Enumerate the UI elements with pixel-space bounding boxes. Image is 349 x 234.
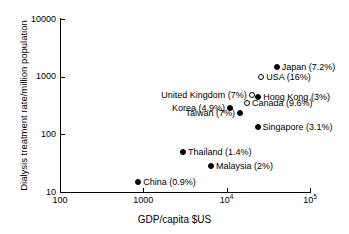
- data-point-label: China (0.9%): [143, 177, 196, 186]
- data-point-label: United Kingdom (7%): [161, 91, 247, 100]
- data-point-label: Taiwan (7%): [186, 108, 236, 117]
- x-tick-label: 105: [303, 196, 317, 205]
- data-point-marker: [244, 100, 250, 106]
- y-tick-mark: [61, 77, 65, 78]
- x-tick-mark: [143, 188, 144, 192]
- data-point-label: Malaysia (2%): [216, 162, 273, 171]
- x-tick-mark: [60, 188, 61, 192]
- x-tick-label: 1000: [133, 196, 153, 205]
- data-point-marker: [274, 64, 280, 70]
- data-point-marker: [135, 179, 141, 185]
- data-point-marker: [208, 163, 214, 169]
- data-point-marker: [255, 124, 261, 130]
- x-axis-title: GDP/capita $US: [0, 214, 349, 225]
- data-point-marker: [258, 74, 264, 80]
- y-tick-mark: [61, 134, 65, 135]
- x-tick-mark: [310, 188, 311, 192]
- data-point-marker: [237, 110, 243, 116]
- y-tick-label: 100: [41, 130, 56, 139]
- x-tick-label: 104: [220, 196, 234, 205]
- data-point-marker: [180, 149, 186, 155]
- y-tick-mark: [61, 192, 65, 193]
- x-tick-label: 100: [52, 196, 67, 205]
- data-point-label: Thailand (1.4%): [188, 147, 252, 156]
- dialysis-gdp-scatter-chart: 10100100010000 1001000104105 Japan (7.2%…: [0, 0, 349, 234]
- x-axis-line: [60, 192, 311, 193]
- y-tick-label: 10000: [31, 15, 56, 24]
- y-axis-line: [60, 18, 61, 193]
- y-axis-title: Dialysis treatment rate/million populati…: [18, 16, 29, 196]
- data-point-label: Canada (9.6%): [252, 98, 313, 107]
- x-tick-mark: [227, 188, 228, 192]
- data-point-label: USA (16%): [266, 72, 311, 81]
- y-tick-mark: [61, 19, 65, 20]
- y-tick-label: 1000: [36, 72, 56, 81]
- data-point-label: Singapore (3.1%): [263, 122, 333, 131]
